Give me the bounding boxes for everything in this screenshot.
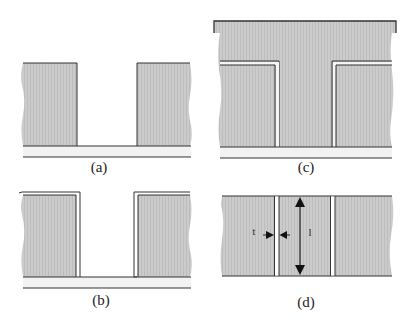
panel-label-a: (a): [91, 159, 108, 176]
gap-left-d: [275, 197, 280, 276]
right-block-b: [138, 195, 192, 277]
panel-d: [221, 196, 394, 276]
height-label: l: [308, 226, 311, 238]
panel-c: [214, 21, 396, 158]
fill-overlayer-c: [214, 21, 396, 147]
gap-right-d: [331, 197, 336, 276]
panel-label-b: (b): [92, 292, 110, 309]
left-block-a: [21, 63, 77, 146]
panel-label-c: (c): [298, 159, 315, 176]
panel-a: [21, 63, 192, 157]
right-block-a: [137, 63, 192, 146]
gap-width-label: t: [253, 226, 256, 237]
figure-canvas: [0, 0, 413, 328]
left-block-b: [21, 195, 76, 277]
substrate-a: [23, 146, 191, 157]
panel-label-d: (d): [297, 294, 315, 311]
panel-b: [19, 192, 192, 288]
planarized-body-d: [221, 196, 394, 276]
